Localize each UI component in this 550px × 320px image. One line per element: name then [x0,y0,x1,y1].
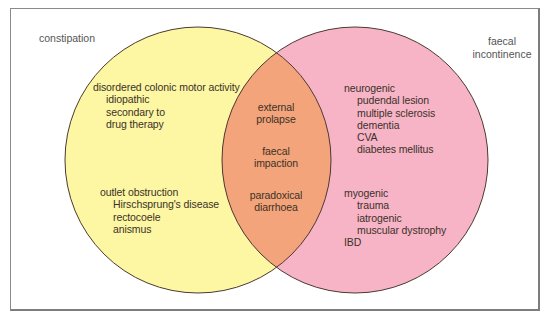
overlap-item-paradoxical-diarrhoea: paradoxical diarrhoea [236,189,316,214]
group-item: drug therapy [93,118,240,130]
group-heading-ibd: IBD [344,236,446,248]
overlap-line: paradoxical [236,189,316,201]
group-item: iatrogenic [344,212,446,224]
group-item: dementia [344,119,435,131]
overlap-line: prolapse [236,113,316,125]
group-item: multiple sclerosis [344,107,435,119]
group-heading: myogenic [344,187,446,199]
group-item: pudendal lesion [344,94,435,106]
faecal-incontinence-set-label: faecal incontinence [462,35,542,60]
group-item: secondary to [93,106,240,118]
group-heading: outlet obstruction [100,186,219,198]
overlap-line: impaction [236,157,316,169]
overlap-item-faecal-impaction: faecal impaction [236,145,316,170]
group-outlet-obstruction: outlet obstruction Hirschsprung's diseas… [100,186,219,235]
group-item: CVA [344,131,435,143]
group-heading: neurogenic [344,82,435,94]
group-disordered-colonic-motor-activity: disordered colonic motor activity idiopa… [93,81,240,130]
group-item: rectocoele [100,211,219,223]
overlap-item-external-prolapse: external prolapse [236,101,316,126]
group-heading: disordered colonic motor activity [93,81,240,93]
group-item: idiopathic [93,93,240,105]
overlap-line: diarrhoea [236,201,316,213]
overlap-line: external [236,101,316,113]
set-label-line1: faecal [462,35,542,48]
group-item: diabetes mellitus [344,143,435,155]
group-neurogenic: neurogenic pudendal lesion multiple scle… [344,82,435,156]
group-myogenic: myogenic trauma iatrogenic muscular dyst… [344,187,446,248]
constipation-set-label: constipation [39,32,95,45]
group-item: Hirschsprung's disease [100,198,219,210]
group-item: trauma [344,199,446,211]
group-item: anismus [100,223,219,235]
set-label-line2: incontinence [462,48,542,61]
group-item: muscular dystrophy [344,224,446,236]
overlap-line: faecal [236,145,316,157]
